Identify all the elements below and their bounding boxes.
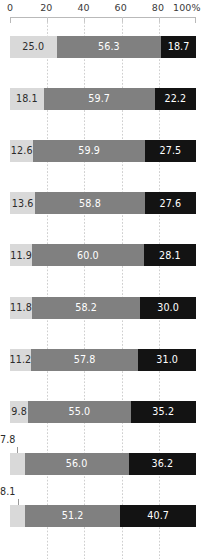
bar-segment-value-label: 11.9 bbox=[10, 251, 32, 261]
bar-segment-mid[interactable]: 55.0 bbox=[28, 401, 130, 423]
bar-segment-value-label: 51.2 bbox=[62, 511, 84, 521]
stacked-bar[interactable]: 11.960.028.1 bbox=[10, 244, 196, 266]
bar-segment-value-label: 57.8 bbox=[74, 355, 96, 365]
bar-segment-value-label: 59.9 bbox=[78, 146, 100, 156]
bar-segment-light[interactable]: 9.8 bbox=[10, 401, 28, 423]
bar-segment-light[interactable]: 13.6 bbox=[10, 192, 35, 214]
bar-segment-value-label: 13.6 bbox=[12, 199, 34, 209]
bar-segment-light[interactable]: 11.9 bbox=[10, 244, 32, 266]
bar-segment-dark[interactable]: 22.2 bbox=[155, 88, 196, 110]
stacked-bar[interactable]: 11.257.831.0 bbox=[10, 349, 196, 371]
bar-segment-dark[interactable]: 28.1 bbox=[144, 244, 196, 266]
bar-segment-mid[interactable]: 51.2 bbox=[25, 505, 120, 527]
bar-segment-dark[interactable]: 27.5 bbox=[145, 140, 196, 162]
bar-segment-mid[interactable]: 60.0 bbox=[32, 244, 144, 266]
bar-segment-value-label: 18.1 bbox=[16, 94, 38, 104]
bar-segment-value-label: 30.0 bbox=[157, 303, 179, 313]
bar-segment-mid[interactable]: 58.2 bbox=[32, 297, 140, 319]
bar-row: 7.856.036.2 bbox=[10, 453, 196, 475]
bar-segment-value-label: 12.6 bbox=[11, 146, 33, 156]
bar-segment-mid[interactable]: 59.7 bbox=[44, 88, 155, 110]
bar-segment-value-label: 60.0 bbox=[77, 251, 99, 261]
bar-segment-value-label: 59.7 bbox=[88, 94, 110, 104]
bar-segment-mid[interactable]: 57.8 bbox=[31, 349, 139, 371]
bar-segment-dark[interactable]: 18.7 bbox=[161, 36, 196, 58]
bar-segment-value-label: 27.6 bbox=[159, 199, 181, 209]
bar-segment-dark[interactable]: 35.2 bbox=[131, 401, 196, 423]
stacked-bar[interactable]: 7.856.036.2 bbox=[10, 453, 196, 475]
bar-segment-value-label: 55.0 bbox=[68, 407, 90, 417]
bar-row: 25.056.318.7 bbox=[10, 36, 196, 58]
bar-row: 9.855.035.2 bbox=[10, 401, 196, 423]
bar-segment-light[interactable]: 7.8 bbox=[10, 453, 25, 475]
bar-row: 12.659.927.5 bbox=[10, 140, 196, 162]
bar-segment-value-label: 56.0 bbox=[66, 459, 88, 469]
bar-segment-light[interactable]: 18.1 bbox=[10, 88, 44, 110]
bars-layer: 25.056.318.718.159.722.212.659.927.513.6… bbox=[0, 0, 212, 559]
bar-segment-light[interactable]: 12.6 bbox=[10, 140, 33, 162]
bar-segment-light[interactable]: 11.2 bbox=[10, 349, 31, 371]
stacked-bar[interactable]: 25.056.318.7 bbox=[10, 36, 196, 58]
bar-segment-value-label: 11.2 bbox=[10, 355, 31, 365]
bar-segment-value-label: 36.2 bbox=[151, 459, 173, 469]
bar-segment-value-label: 27.5 bbox=[160, 146, 182, 156]
bar-row: 11.257.831.0 bbox=[10, 349, 196, 371]
bar-segment-value-label: 18.7 bbox=[168, 42, 190, 52]
bar-segment-light[interactable]: 8.1 bbox=[10, 505, 25, 527]
bar-segment-mid[interactable]: 56.0 bbox=[25, 453, 129, 475]
bar-segment-mid[interactable]: 59.9 bbox=[33, 140, 144, 162]
stacked-bar[interactable]: 18.159.722.2 bbox=[10, 88, 196, 110]
bar-row: 8.151.240.7 bbox=[10, 505, 196, 527]
bar-segment-value-label: 58.2 bbox=[75, 303, 97, 313]
stacked-bar[interactable]: 9.855.035.2 bbox=[10, 401, 196, 423]
bar-row: 11.858.230.0 bbox=[10, 297, 196, 319]
bar-segment-value-label-outside: 7.8 bbox=[0, 435, 16, 445]
bar-segment-value-label: 40.7 bbox=[147, 511, 169, 521]
bar-segment-value-label-outside: 8.1 bbox=[0, 487, 16, 497]
bar-segment-value-label: 9.8 bbox=[11, 407, 27, 417]
bar-segment-dark[interactable]: 30.0 bbox=[140, 297, 196, 319]
bar-segment-dark[interactable]: 27.6 bbox=[145, 192, 196, 214]
bar-row: 18.159.722.2 bbox=[10, 88, 196, 110]
stacked-bar[interactable]: 13.658.827.6 bbox=[10, 192, 196, 214]
bar-segment-value-label: 28.1 bbox=[159, 251, 181, 261]
bar-segment-value-label: 11.8 bbox=[10, 303, 32, 313]
bar-row: 11.960.028.1 bbox=[10, 244, 196, 266]
bar-segment-mid[interactable]: 58.8 bbox=[35, 192, 144, 214]
bar-segment-value-label: 35.2 bbox=[152, 407, 174, 417]
bar-segment-light[interactable]: 11.8 bbox=[10, 297, 32, 319]
bar-segment-dark[interactable]: 31.0 bbox=[138, 349, 196, 371]
bar-segment-dark[interactable]: 36.2 bbox=[129, 453, 196, 475]
bar-segment-value-label: 31.0 bbox=[156, 355, 178, 365]
bar-segment-value-label: 56.3 bbox=[98, 42, 120, 52]
bar-segment-light[interactable]: 25.0 bbox=[10, 36, 57, 58]
bar-segment-dark[interactable]: 40.7 bbox=[120, 505, 196, 527]
stacked-bar[interactable]: 12.659.927.5 bbox=[10, 140, 196, 162]
bar-segment-mid[interactable]: 56.3 bbox=[57, 36, 162, 58]
stacked-bar-chart: 020406080100% 25.056.318.718.159.722.212… bbox=[0, 0, 212, 559]
stacked-bar[interactable]: 11.858.230.0 bbox=[10, 297, 196, 319]
bar-segment-value-label: 58.8 bbox=[79, 199, 101, 209]
bar-row: 13.658.827.6 bbox=[10, 192, 196, 214]
stacked-bar[interactable]: 8.151.240.7 bbox=[10, 505, 196, 527]
bar-segment-value-label: 25.0 bbox=[22, 42, 44, 52]
bar-segment-value-label: 22.2 bbox=[164, 94, 186, 104]
